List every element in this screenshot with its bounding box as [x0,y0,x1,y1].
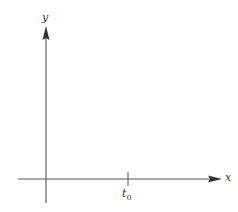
y-axis [43,26,50,203]
x-axis-label: x [225,172,231,183]
y-axis-arrow-icon [43,26,50,40]
diagram-canvas: y x t0 [0,0,238,212]
x-axis-arrow-icon [208,176,222,183]
axes-drawing [0,0,238,212]
tick-label-subscript: 0 [126,193,131,202]
x-axis [18,176,222,183]
tick-label-t0: t0 [122,188,132,202]
y-axis-label: y [42,12,48,23]
